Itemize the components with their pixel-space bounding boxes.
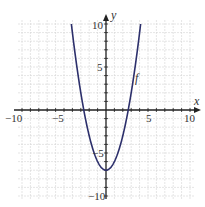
x-tick-label: −10 [5,112,23,124]
y-axis-arrow-icon [103,14,109,21]
y-tick-label: −5 [92,147,104,159]
x-axis-label: x [193,94,200,108]
y-tick-label: 10 [92,19,104,31]
y-tick-label: 5 [97,61,103,73]
x-tick-label: −5 [52,112,64,124]
y-tick-label: −10 [88,190,106,202]
curve-label-f: f [135,71,140,85]
y-axis-label: y [110,8,117,22]
x-tick-label: 5 [146,112,152,124]
x-tick-label: 10 [184,112,196,124]
function-graph: x y f −10 −5 5 10 10 5 −5 −10 [0,0,205,207]
